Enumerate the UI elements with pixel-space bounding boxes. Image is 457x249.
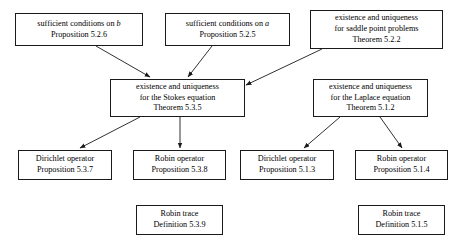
- node-laplace-line-1: existence and uniqueness: [329, 82, 412, 93]
- node-laplace-line-2: for the Laplace equation: [331, 93, 411, 104]
- node-suff-b: sufficient conditions on bProposition 5.…: [15, 13, 143, 46]
- node-robin-538: Robin operatorProposition 5.3.8: [133, 150, 226, 180]
- edge-suff-b-to-stokes: [96, 46, 150, 77]
- node-robin-514-line-2: Proposition 5.1.4: [373, 165, 429, 176]
- node-saddle-point-line-2: for saddle point problems: [335, 24, 419, 35]
- node-suff-b-line-2: Proposition 5.2.6: [51, 30, 107, 41]
- node-robin-trace-515-line-2: Definition 5.1.5: [375, 220, 427, 231]
- node-stokes-line-1: existence and uniqueness: [136, 82, 219, 93]
- node-dirichlet-537: Dirichlet operatorProposition 5.3.7: [18, 150, 112, 180]
- node-dirichlet-513: Dirichlet operatorProposition 5.1.3: [240, 150, 334, 180]
- node-robin-538-line-2: Proposition 5.3.8: [151, 165, 207, 176]
- node-suff-a-line-1: sufficient conditions on a: [186, 19, 269, 30]
- node-robin-trace-515-line-1: Robin trace: [383, 209, 421, 220]
- node-robin-trace-515: Robin traceDefinition 5.1.5: [358, 205, 445, 235]
- node-suff-a: sufficient conditions on aProposition 5.…: [165, 13, 290, 46]
- node-laplace-line-3: Theorem 5.1.2: [347, 103, 395, 114]
- node-robin-trace-539-line-1: Robin trace: [161, 209, 199, 220]
- node-saddle-point-line-1: existence and uniqueness: [335, 13, 418, 24]
- node-dirichlet-513-line-1: Dirichlet operator: [258, 154, 316, 165]
- node-stokes-line-3: Theorem 5.3.5: [154, 103, 202, 114]
- node-stokes: existence and uniquenessfor the Stokes e…: [110, 79, 245, 117]
- node-dirichlet-537-line-2: Proposition 5.3.7: [37, 165, 93, 176]
- node-robin-538-line-1: Robin operator: [155, 154, 204, 165]
- node-saddle-point: existence and uniquenessfor saddle point…: [310, 10, 443, 49]
- node-stokes-line-2: for the Stokes equation: [140, 93, 216, 104]
- node-dirichlet-537-line-1: Dirichlet operator: [36, 154, 94, 165]
- node-robin-trace-539-line-2: Definition 5.3.9: [153, 220, 205, 231]
- node-robin-514: Robin operatorProposition 5.1.4: [355, 150, 448, 180]
- node-robin-trace-539: Robin traceDefinition 5.3.9: [136, 205, 223, 235]
- edge-stokes-to-dirichlet537: [80, 117, 140, 148]
- edge-laplace-to-robin514: [380, 117, 402, 148]
- node-laplace: existence and uniquenessfor the Laplace …: [313, 79, 428, 117]
- flowchart-diagram: sufficient conditions on bProposition 5.…: [0, 0, 457, 249]
- node-suff-b-line-1: sufficient conditions on b: [37, 19, 120, 30]
- edge-suff-a-to-stokes: [188, 46, 212, 77]
- node-dirichlet-513-line-2: Proposition 5.1.3: [259, 165, 315, 176]
- node-robin-514-line-1: Robin operator: [377, 154, 426, 165]
- node-saddle-point-line-3: Theorem 5.2.2: [353, 35, 401, 46]
- node-suff-a-line-2: Proposition 5.2.5: [199, 30, 255, 41]
- edge-saddle-to-stokes: [246, 49, 322, 85]
- edge-laplace-to-dirichlet513: [304, 117, 340, 148]
